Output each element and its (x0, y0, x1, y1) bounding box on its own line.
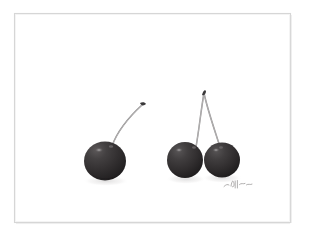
cherry-right (204, 143, 240, 178)
cherry-right-stem-dimple (219, 146, 223, 148)
cherry-left-stem-dimple (109, 145, 113, 148)
paper-background (0, 0, 309, 237)
cherry-left-highlight (95, 147, 104, 152)
cherry-left-body (84, 142, 126, 181)
cherry-left (84, 142, 126, 181)
cherries-painting (0, 0, 309, 237)
cherry-middle-highlight (175, 148, 183, 153)
cherry-middle-stem-dimple (192, 146, 196, 148)
cherry-right-highlight (212, 148, 220, 152)
signature-stroke-6 (247, 184, 253, 185)
artwork-canvas: Three Cherries Artist signature (illegib… (0, 0, 309, 237)
cherry-middle-body (167, 142, 203, 178)
cherry-middle (167, 142, 203, 178)
